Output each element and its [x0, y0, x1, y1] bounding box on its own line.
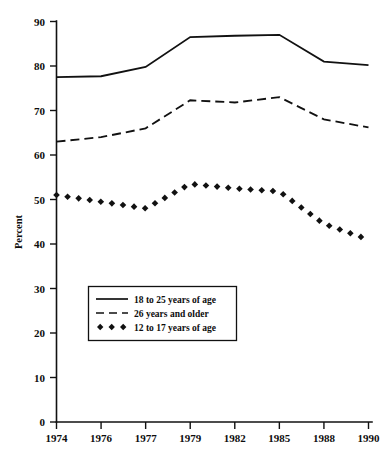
series-marker	[298, 204, 305, 211]
series-marker	[326, 223, 333, 230]
series-marker	[162, 195, 169, 202]
chart-container: Percent 0102030405060708090 197419761977…	[0, 0, 384, 465]
y-tick-label: 30	[34, 283, 46, 295]
y-axis-title-group: Percent	[13, 214, 24, 249]
x-tick-label: 1976	[90, 432, 113, 444]
y-tick-label: 40	[34, 238, 46, 250]
series-marker	[142, 205, 149, 212]
series-marker	[64, 193, 71, 200]
series-marker	[289, 198, 296, 205]
series-marker	[214, 183, 221, 190]
x-tick-label: 1988	[313, 432, 336, 444]
legend-label-0: 18 to 25 years of age	[134, 295, 216, 305]
series-marker	[181, 184, 188, 191]
y-tick-label: 50	[34, 194, 46, 206]
y-axis-title: Percent	[13, 214, 24, 249]
y-tick-label: 0	[40, 416, 46, 428]
y-tick-label: 70	[34, 105, 46, 117]
series-marker	[131, 203, 138, 210]
series-marker	[120, 202, 127, 209]
y-tick-label: 60	[34, 149, 46, 161]
x-tick-label: 1977	[135, 432, 158, 444]
x-tick-label: 1990	[358, 432, 381, 444]
y-tick-label: 20	[34, 327, 46, 339]
y-tick-label: 10	[34, 372, 46, 384]
x-tick-label: 1974	[46, 432, 69, 444]
series-marker	[171, 189, 178, 196]
series-marker	[316, 217, 323, 224]
series-marker	[336, 226, 343, 233]
series-marker	[152, 200, 159, 207]
line-chart: Percent 0102030405060708090 197419761977…	[0, 0, 384, 465]
series-marker	[307, 211, 314, 218]
series-marker	[247, 186, 254, 193]
x-tick-label: 1982	[224, 432, 247, 444]
x-tick-label: 1985	[268, 432, 291, 444]
series-marker	[192, 181, 199, 188]
series-markers-12-to-17	[53, 181, 364, 240]
legend-label-2: 12 to 17 years of age	[134, 323, 216, 333]
legend-label-1: 26 years and older	[134, 309, 209, 319]
y-axis: 0102030405060708090	[34, 16, 57, 429]
x-tick-group: 19741976197719791982198519881990	[46, 422, 381, 444]
series-marker	[236, 185, 243, 192]
series-group	[53, 35, 368, 240]
series-marker	[347, 230, 354, 237]
y-tick-group: 0102030405060708090	[34, 16, 57, 429]
series-line-18-to-25	[57, 35, 369, 77]
series-marker	[358, 234, 365, 241]
series-marker	[225, 184, 232, 191]
series-marker	[98, 198, 105, 205]
x-axis: 19741976197719791982198519881990	[46, 422, 381, 444]
x-tick-label: 1979	[179, 432, 202, 444]
y-tick-label: 90	[34, 16, 46, 28]
series-line-26-and-older	[57, 97, 369, 141]
y-tick-label: 80	[34, 60, 46, 72]
series-marker	[53, 192, 60, 199]
series-marker	[280, 191, 287, 198]
legend: 18 to 25 years of age 26 years and older…	[89, 287, 237, 341]
series-marker	[75, 195, 82, 202]
series-marker	[258, 187, 265, 194]
series-marker	[86, 197, 93, 204]
series-marker	[270, 188, 277, 195]
series-marker	[203, 182, 210, 189]
series-marker	[109, 200, 116, 207]
